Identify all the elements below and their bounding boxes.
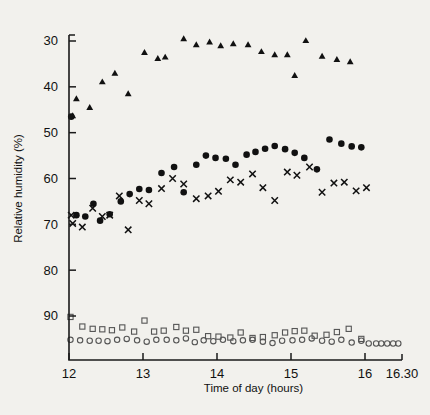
data-point — [206, 39, 213, 45]
data-point — [161, 328, 166, 333]
data-point — [158, 185, 164, 191]
data-point — [232, 161, 239, 168]
y-axis-tick-label: 30 — [44, 33, 58, 48]
data-point — [154, 337, 159, 342]
axes-layer — [69, 35, 402, 360]
data-point — [301, 155, 308, 162]
data-point — [154, 55, 161, 61]
data-point — [220, 337, 225, 342]
y-axis-tick-label: 70 — [44, 217, 58, 232]
y-axis-tick-label: 90 — [44, 308, 58, 323]
data-point — [136, 186, 143, 193]
data-point — [346, 326, 351, 331]
data-point — [126, 191, 133, 198]
data-point — [243, 151, 250, 158]
y-axis-tick-label: 60 — [44, 171, 58, 186]
data-point — [272, 197, 278, 203]
x-axis-tick-label: 15 — [284, 366, 298, 381]
data-point — [379, 341, 384, 346]
data-point — [319, 338, 324, 343]
data-point — [99, 78, 106, 84]
data-point — [279, 338, 284, 343]
data-point — [326, 136, 333, 143]
data-point — [181, 181, 187, 187]
data-point — [201, 338, 206, 343]
data-point — [270, 340, 275, 345]
data-point — [169, 175, 175, 181]
data-point — [86, 104, 93, 110]
data-point — [250, 337, 255, 342]
data-point — [271, 143, 278, 150]
data-point — [294, 172, 300, 178]
data-point — [132, 329, 137, 334]
y-axis-tick-label: 50 — [44, 125, 58, 140]
data-point — [385, 341, 390, 346]
data-point — [366, 341, 371, 346]
x-axis-title: Time of day (hours) — [204, 382, 303, 394]
data-point — [302, 328, 307, 333]
data-point — [319, 189, 325, 195]
x-axis-tick-label: 12 — [62, 366, 76, 381]
data-point — [118, 198, 125, 205]
data-point — [291, 150, 298, 157]
humidity-scatter-chart: 30405060708090121314151616.30Time of day… — [0, 0, 430, 415]
series-cross — [68, 164, 370, 233]
data-point — [205, 193, 211, 199]
data-point — [152, 329, 157, 334]
data-point — [349, 340, 354, 345]
data-point — [363, 184, 369, 190]
data-point — [272, 333, 277, 338]
data-point — [212, 155, 219, 162]
data-point — [211, 339, 216, 344]
data-point — [146, 201, 152, 207]
y-axis-tick-label: 40 — [44, 79, 58, 94]
data-point — [192, 339, 197, 344]
y-axis-title: Relative humidity (%) — [12, 134, 24, 243]
data-point — [331, 180, 337, 186]
data-point — [245, 41, 252, 47]
data-point — [158, 170, 165, 177]
data-point — [203, 152, 210, 159]
data-point — [240, 338, 245, 343]
data-point — [144, 339, 149, 344]
data-point — [114, 337, 119, 342]
data-point — [324, 332, 329, 337]
data-point — [80, 324, 85, 329]
data-point — [282, 146, 289, 153]
data-point — [223, 155, 230, 162]
data-point — [77, 338, 82, 343]
data-point — [70, 220, 76, 226]
data-point — [141, 49, 148, 55]
data-point — [180, 189, 187, 196]
data-point — [164, 337, 169, 342]
data-point — [87, 338, 92, 343]
data-point — [338, 140, 345, 147]
x-axis-tick-label: 16 — [358, 366, 372, 381]
data-point — [120, 325, 125, 330]
plot-marks-layer — [68, 35, 401, 346]
data-point — [125, 227, 131, 233]
data-point — [100, 327, 105, 332]
data-point — [109, 328, 114, 333]
y-axis-tick-label: 80 — [44, 263, 58, 278]
data-point — [116, 193, 122, 199]
data-point — [358, 144, 365, 151]
data-point — [180, 35, 187, 41]
data-point — [292, 329, 297, 334]
axis-lines — [69, 35, 402, 360]
x-axis-tick-label: 14 — [210, 366, 224, 381]
series-open-square — [68, 314, 364, 341]
data-point — [125, 90, 132, 96]
data-point — [284, 51, 291, 57]
data-point — [291, 72, 298, 78]
data-point — [334, 329, 339, 334]
x-axis-tick-label: 16.30 — [386, 366, 419, 381]
data-point — [174, 324, 179, 329]
data-point — [359, 338, 364, 343]
data-point — [227, 177, 233, 183]
data-point — [146, 187, 153, 194]
data-point — [390, 341, 395, 346]
data-point — [341, 179, 347, 185]
data-point — [193, 41, 200, 47]
data-point — [111, 70, 118, 76]
